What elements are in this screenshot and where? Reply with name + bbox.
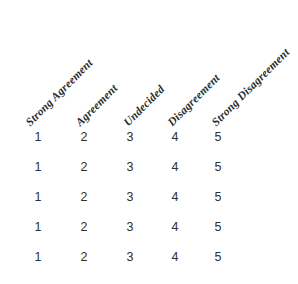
response-option-3[interactable]: 3 — [121, 188, 139, 206]
response-option-4[interactable]: 4 — [166, 128, 184, 146]
response-rows: 1234512345123451234512345 — [0, 128, 298, 278]
response-option-1[interactable]: 1 — [29, 218, 47, 236]
response-option-3[interactable]: 3 — [121, 218, 139, 236]
column-header-5: Strong Disagreement — [210, 46, 292, 128]
response-option-1[interactable]: 1 — [29, 128, 47, 146]
response-option-5[interactable]: 5 — [209, 248, 227, 266]
response-option-4[interactable]: 4 — [166, 248, 184, 266]
likert-scale-table: Strong AgreementAgreementUndecidedDisagr… — [0, 0, 298, 284]
response-option-2[interactable]: 2 — [75, 128, 93, 146]
response-option-2[interactable]: 2 — [75, 158, 93, 176]
response-option-4[interactable]: 4 — [166, 188, 184, 206]
table-row: 12345 — [0, 188, 298, 218]
response-option-5[interactable]: 5 — [209, 218, 227, 236]
column-header-2: Agreement — [74, 82, 120, 128]
table-row: 12345 — [0, 128, 298, 158]
column-header-band: Strong AgreementAgreementUndecidedDisagr… — [0, 0, 298, 128]
response-option-1[interactable]: 1 — [29, 248, 47, 266]
response-option-2[interactable]: 2 — [75, 218, 93, 236]
table-row: 12345 — [0, 218, 298, 248]
response-option-5[interactable]: 5 — [209, 158, 227, 176]
response-option-4[interactable]: 4 — [166, 158, 184, 176]
response-option-5[interactable]: 5 — [209, 128, 227, 146]
column-header-3: Undecided — [122, 83, 167, 128]
response-option-3[interactable]: 3 — [121, 128, 139, 146]
response-option-1[interactable]: 1 — [29, 158, 47, 176]
response-option-2[interactable]: 2 — [75, 188, 93, 206]
table-row: 12345 — [0, 158, 298, 188]
response-option-1[interactable]: 1 — [29, 188, 47, 206]
response-option-3[interactable]: 3 — [121, 248, 139, 266]
response-option-2[interactable]: 2 — [75, 248, 93, 266]
response-option-4[interactable]: 4 — [166, 218, 184, 236]
response-option-5[interactable]: 5 — [209, 188, 227, 206]
table-row: 12345 — [0, 248, 298, 278]
response-option-3[interactable]: 3 — [121, 158, 139, 176]
